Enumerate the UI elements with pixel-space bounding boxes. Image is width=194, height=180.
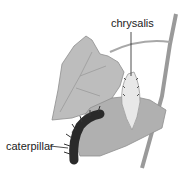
chrysalis-label: chrysalis	[111, 18, 154, 29]
twig	[110, 41, 170, 52]
caterpillar-label: caterpillar	[6, 141, 54, 152]
branch-stem	[142, 14, 176, 168]
illustration	[0, 0, 194, 180]
